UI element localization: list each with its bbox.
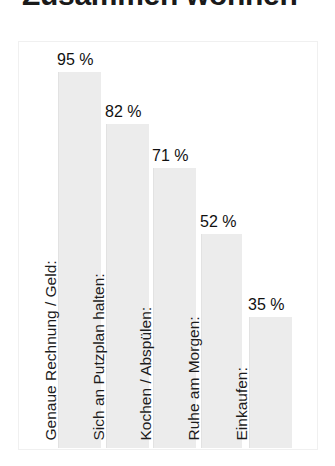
bar-value-label: 95 % xyxy=(57,52,93,68)
bar-category-label-text: Genaue Rechnung / Geld: xyxy=(43,260,59,442)
bar-category-label: Genaue Rechnung / Geld: xyxy=(43,399,59,442)
chart-title-container: Zusammen wohnen xyxy=(0,0,335,14)
bar-category-label: Ruhe am Morgen: xyxy=(186,401,202,442)
bar-group[interactable]: Einkaufen:35 % xyxy=(249,317,292,448)
bar-category-label-text: Kochen / Abspülen: xyxy=(138,306,154,442)
chart-plot-area: Genaue Rechnung / Geld:95 %Sich an Putzp… xyxy=(18,41,318,450)
chart-title: Zusammen wohnen xyxy=(22,0,298,12)
bar-category-label-text: Einkaufen: xyxy=(234,367,250,442)
bar-value-label: 35 % xyxy=(248,297,284,313)
bar-value-label: 82 % xyxy=(105,104,141,120)
bar-category-label-text: Sich an Putzplan halten: xyxy=(91,273,107,442)
bar-category-label: Einkaufen: xyxy=(234,399,250,442)
bar-rect[interactable] xyxy=(249,317,292,448)
bar-value-label: 52 % xyxy=(200,214,236,230)
bar-value-label: 71 % xyxy=(152,148,188,164)
bar-category-label: Sich an Putzplan halten: xyxy=(91,399,107,442)
bar-series: Genaue Rechnung / Geld:95 %Sich an Putzp… xyxy=(19,42,317,449)
bar-category-label: Kochen / Abspülen: xyxy=(138,399,154,442)
bar-category-label-text: Ruhe am Morgen: xyxy=(186,316,202,442)
